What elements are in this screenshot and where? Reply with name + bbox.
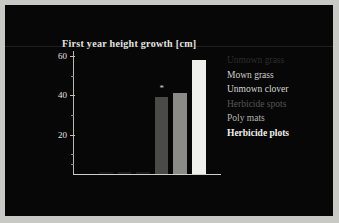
y-axis-line bbox=[73, 51, 74, 175]
chart-title: First year height growth [cm] bbox=[62, 38, 196, 49]
bar bbox=[173, 93, 187, 174]
legend-item: Poly mats bbox=[227, 111, 332, 126]
x-axis-baseline bbox=[73, 174, 221, 175]
bar-chart: First year height growth [cm] 604020 * U… bbox=[5, 5, 333, 216]
y-tick-label: 20 bbox=[58, 130, 67, 140]
bar bbox=[118, 172, 132, 174]
y-tick-major: 60 bbox=[70, 56, 75, 57]
y-tick-minor bbox=[71, 76, 74, 77]
frame-edge-right bbox=[333, 0, 339, 223]
bar bbox=[155, 97, 169, 174]
bar bbox=[136, 172, 150, 174]
legend-item: Unmown grass bbox=[227, 53, 332, 68]
figure-frame: First year height growth [cm] 604020 * U… bbox=[0, 0, 339, 223]
legend-item: Unmown clover bbox=[227, 82, 332, 97]
photo-plate: First year height growth [cm] 604020 * U… bbox=[5, 5, 333, 216]
frame-edge-bottom bbox=[0, 216, 339, 223]
bar bbox=[192, 60, 206, 174]
legend-item: Herbicide plots bbox=[227, 126, 332, 141]
y-tick-minor bbox=[71, 164, 74, 165]
legend-item: Mown grass bbox=[227, 68, 332, 83]
y-tick-minor bbox=[71, 154, 74, 155]
plot-area: 604020 * bbox=[73, 51, 221, 175]
y-tick-label: 40 bbox=[58, 90, 67, 100]
y-tick-minor bbox=[71, 115, 74, 116]
y-tick-major: 40 bbox=[70, 95, 75, 96]
legend: Unmown grassMown grassUnmown cloverHerbi… bbox=[227, 53, 332, 141]
legend-item: Herbicide spots bbox=[227, 97, 332, 112]
y-tick-major: 20 bbox=[70, 135, 75, 136]
significance-marker: * bbox=[160, 85, 165, 91]
y-tick-label: 60 bbox=[58, 51, 67, 61]
bar bbox=[99, 172, 113, 174]
